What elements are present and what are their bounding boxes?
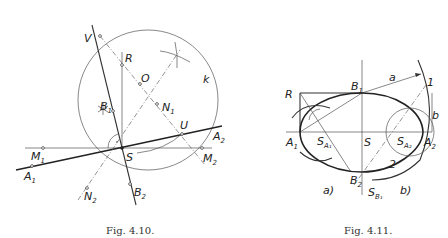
- label-sa2: SA₂: [397, 135, 412, 150]
- label-n1: N1: [162, 101, 175, 116]
- right-angle-arc: [108, 134, 118, 148]
- diagram-canvas: V R O k B1 N1 U A2 M1 S M2 A1 N2 B2 Fig.…: [0, 0, 448, 238]
- label-a2: A2: [423, 136, 437, 151]
- label-part-b: b): [400, 184, 411, 197]
- construction-arc: [160, 51, 190, 62]
- circle-k: [78, 30, 218, 170]
- label-s: S: [364, 136, 371, 149]
- arc-sa1-top: [292, 106, 330, 118]
- label-s: S: [126, 151, 133, 164]
- ellipse: [300, 93, 423, 172]
- label-v: V: [84, 32, 93, 45]
- label-a: a: [389, 71, 396, 84]
- label-a1: A1: [285, 136, 298, 151]
- line-v-m2: [100, 36, 205, 165]
- figure-4-11: R B1 a 1 b A1 SA₁ S SA₂ A2 2 B2 SB₁ a) b…: [285, 60, 439, 236]
- figure-4-10: V R O k B1 N1 U A2 M1 S M2 A1 N2 B2 Fig.…: [16, 25, 226, 236]
- label-m1: M1: [31, 150, 45, 165]
- figure-caption: Fig. 4.11.: [344, 225, 392, 236]
- label-o: O: [141, 72, 150, 85]
- label-1: 1: [427, 76, 434, 89]
- label-b: b: [432, 109, 439, 122]
- label-m2: M2: [203, 152, 218, 167]
- label-2: 2: [389, 158, 396, 171]
- label-n2: N2: [84, 190, 97, 205]
- label-a2: A2: [212, 130, 226, 145]
- label-a1: A1: [23, 170, 36, 185]
- label-r: R: [285, 88, 293, 101]
- line-a1-b1: [300, 93, 362, 132]
- figure-caption: Fig. 4.10.: [106, 225, 154, 236]
- right-angle-dot: [116, 141, 118, 143]
- right-angle-arc: [309, 109, 320, 120]
- label-part-a: a): [323, 184, 334, 197]
- label-b1: B1: [351, 80, 363, 95]
- label-b2: B2: [134, 186, 147, 201]
- label-sb1: SB₁: [368, 186, 383, 201]
- label-u: U: [180, 119, 188, 132]
- label-sa1: SA₁: [317, 135, 332, 150]
- label-b1: B1: [100, 100, 112, 115]
- label-k: k: [203, 73, 210, 86]
- label-r: R: [125, 52, 133, 65]
